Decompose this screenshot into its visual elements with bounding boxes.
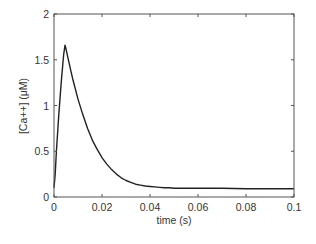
y-tick-label: 0 bbox=[43, 191, 49, 203]
y-tick-label: 1 bbox=[43, 100, 49, 112]
plot-frame bbox=[54, 14, 294, 197]
x-tick-labels: 00.020.040.060.080.1 bbox=[51, 201, 301, 213]
y-tick-label: 0.5 bbox=[34, 145, 49, 157]
x-tick-label: 0.08 bbox=[236, 201, 257, 213]
calcium-trace bbox=[54, 45, 294, 189]
x-tick-label: 0.1 bbox=[287, 201, 302, 213]
x-tick-label: 0.04 bbox=[140, 201, 161, 213]
y-axis-label: [Ca++] (μM) bbox=[17, 78, 29, 134]
x-tick-label: 0 bbox=[51, 201, 57, 213]
y-tick-label: 2 bbox=[43, 8, 49, 20]
x-tick-label: 0.06 bbox=[188, 201, 209, 213]
axis-ticks bbox=[54, 14, 294, 197]
y-tick-labels: 00.511.52 bbox=[34, 8, 49, 203]
y-tick-label: 1.5 bbox=[34, 54, 49, 66]
data-line bbox=[54, 45, 294, 189]
x-axis-label: time (s) bbox=[157, 214, 192, 226]
chart: 00.020.040.060.080.1 00.511.52 time (s) … bbox=[0, 0, 316, 244]
x-tick-label: 0.02 bbox=[92, 201, 113, 213]
